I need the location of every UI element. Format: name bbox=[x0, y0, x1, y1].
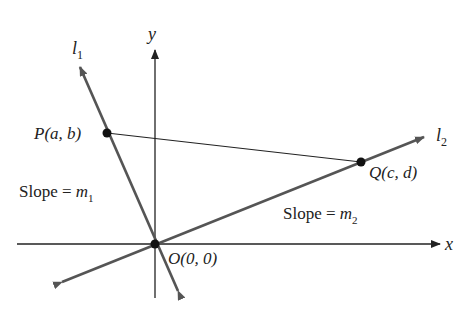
x-axis-label: x bbox=[444, 234, 453, 254]
segment-pq bbox=[107, 133, 361, 162]
point-q bbox=[357, 158, 366, 167]
point-p bbox=[103, 129, 112, 138]
y-axis-label: y bbox=[146, 24, 156, 44]
slope-m2-label: Slope = m2 bbox=[283, 204, 358, 226]
label-p: P(a, b) bbox=[33, 124, 82, 143]
label-o: O(0, 0) bbox=[168, 249, 217, 268]
line-l1 bbox=[80, 67, 178, 291]
label-l2: l2 bbox=[436, 125, 447, 149]
line-l2 bbox=[62, 137, 424, 282]
slope-m1-label: Slope = m1 bbox=[19, 182, 94, 204]
coordinate-diagram: x y l1 l2 P(a, b) Q(c, d) O(0, 0) Slope … bbox=[0, 0, 473, 315]
label-l1: l1 bbox=[72, 38, 83, 62]
point-o bbox=[151, 240, 160, 249]
diagram-canvas: x y l1 l2 P(a, b) Q(c, d) O(0, 0) Slope … bbox=[0, 0, 473, 315]
label-q: Q(c, d) bbox=[369, 163, 417, 182]
